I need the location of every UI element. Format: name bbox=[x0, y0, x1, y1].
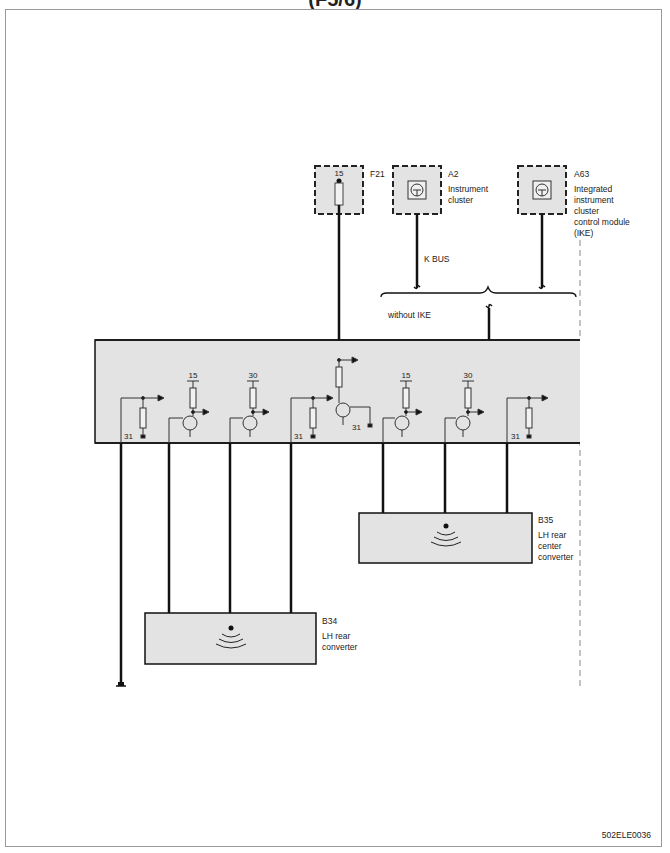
fuse-f21 bbox=[315, 166, 363, 360]
ike-name-line1: Integrated bbox=[574, 184, 613, 194]
b35-name-line2: center bbox=[538, 541, 562, 551]
fuse-id-label: F21 bbox=[370, 169, 385, 179]
b34-lh-rear-converter bbox=[145, 613, 316, 664]
b35-lh-rear-center-converter bbox=[359, 513, 532, 563]
ike-id-label: A63 bbox=[574, 169, 589, 179]
a2-name-line1: Instrument bbox=[448, 184, 489, 194]
ike-name-line5: (IKE) bbox=[574, 228, 594, 238]
b34-name-line1: LH rear bbox=[322, 631, 351, 641]
terminal-30-a: 30 bbox=[249, 371, 258, 380]
ike-a63 bbox=[518, 166, 566, 289]
a2-id-label: A2 bbox=[448, 169, 459, 179]
b35-id-label: B35 bbox=[538, 515, 553, 525]
bus-brace bbox=[381, 287, 576, 297]
b34-id-label: B34 bbox=[322, 616, 337, 626]
b35-name-line1: LH rear bbox=[538, 530, 567, 540]
ike-name-line2: instrument bbox=[574, 195, 614, 205]
fuse-terminal-label: 15 bbox=[335, 169, 344, 178]
figure-code: 502ELE0036 bbox=[602, 830, 651, 840]
b34-name-line2: converter bbox=[322, 642, 358, 652]
terminal-15-b: 15 bbox=[402, 371, 411, 380]
a2-name-line2: cluster bbox=[448, 195, 473, 205]
terminal-30-b: 30 bbox=[464, 371, 473, 380]
instrument-cluster-a2 bbox=[393, 166, 441, 289]
terminal-31-b: 31 bbox=[294, 432, 303, 441]
terminal-31-d: 31 bbox=[511, 432, 520, 441]
wiring-diagram: 15 F21 A2 Instrument cluster K BUS A63 I… bbox=[0, 0, 670, 853]
ike-name-line3: cluster bbox=[574, 206, 599, 216]
ike-name-line4: control module bbox=[574, 217, 630, 227]
without-ike-label: without IKE bbox=[387, 310, 431, 320]
terminal-31-c: 31 bbox=[352, 423, 361, 432]
terminal-15-a: 15 bbox=[189, 371, 198, 380]
terminal-31-a: 31 bbox=[124, 432, 133, 441]
b35-name-line3: converter bbox=[538, 552, 574, 562]
kbus-label: K BUS bbox=[424, 254, 450, 264]
